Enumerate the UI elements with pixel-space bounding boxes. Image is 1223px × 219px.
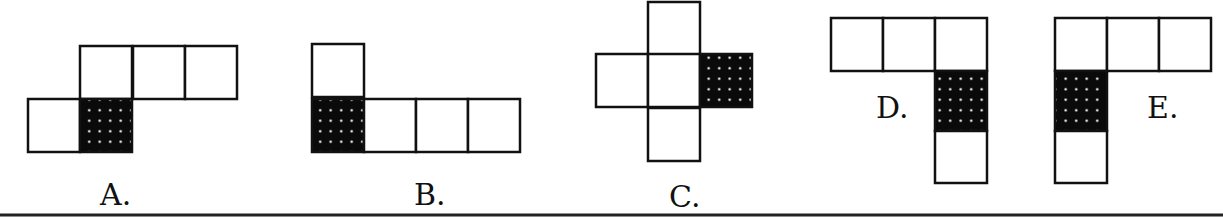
blank-face — [80, 46, 132, 99]
blank-face — [1055, 18, 1107, 71]
blank-face — [648, 2, 700, 55]
blank-face — [1159, 18, 1211, 71]
option-c-net — [596, 2, 752, 161]
blank-face — [133, 46, 185, 99]
option-d-label: D. — [876, 90, 909, 125]
blank-face — [416, 99, 468, 152]
option-b-net — [312, 44, 520, 152]
blank-face — [648, 54, 700, 107]
shaded-face — [1055, 71, 1107, 131]
shaded-face — [700, 54, 752, 107]
option-a-net — [28, 46, 237, 152]
blank-face — [364, 99, 416, 152]
blank-face — [468, 99, 520, 152]
blank-face — [185, 46, 237, 99]
blank-face — [596, 54, 648, 107]
blank-face — [1107, 18, 1159, 71]
blank-face — [883, 18, 935, 71]
cube-net-diagram: A. B. C. D. E. — [0, 0, 1223, 219]
blank-face — [312, 44, 364, 97]
blank-face — [935, 131, 987, 183]
option-a-label: A. — [99, 177, 131, 212]
option-e-label: E. — [1147, 90, 1178, 125]
option-b-label: B. — [414, 177, 446, 212]
blank-face — [831, 18, 883, 71]
blank-face — [935, 18, 987, 71]
shaded-face — [80, 99, 132, 152]
shaded-face — [312, 99, 364, 152]
blank-face — [648, 108, 700, 161]
blank-face — [28, 99, 80, 152]
shaded-face — [935, 71, 987, 131]
option-c-label: C. — [669, 179, 700, 214]
option-d-net — [831, 18, 987, 183]
blank-face — [1055, 131, 1107, 183]
option-e-net — [1055, 18, 1211, 183]
